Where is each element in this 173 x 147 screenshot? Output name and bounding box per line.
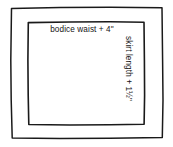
pattern-diagram-canvas: bodice waist + 4" skirt length + 1½" (0, 0, 173, 147)
inner-rectangle-path (28, 22, 145, 125)
outer-rectangle-path (11, 7, 163, 138)
diagram-linework (0, 0, 173, 147)
